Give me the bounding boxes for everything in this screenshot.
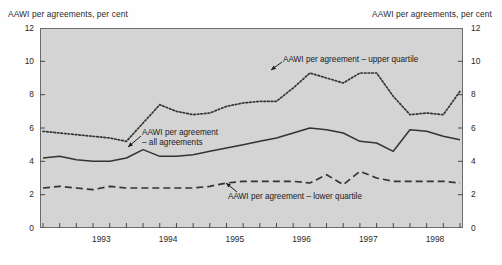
annotation-all-agreements: AAWI per agreement– all agreements xyxy=(142,128,218,147)
annotation-all-line2: – all agreements xyxy=(142,138,203,147)
annotation-upper-quartile: AAWI per agreement – upper quartile xyxy=(283,55,418,65)
annotation-arrows xyxy=(0,0,502,265)
annotation-arrow xyxy=(226,183,237,192)
annotation-all-line1: AAWI per agreement xyxy=(142,128,218,137)
annotation-arrow xyxy=(271,62,282,70)
annotation-arrow xyxy=(128,136,141,147)
annotation-lower-quartile: AAWI per agreement – lower quartile xyxy=(228,192,362,202)
chart-figure: AAWI per agreements, per cent AAWI per a… xyxy=(0,0,502,265)
